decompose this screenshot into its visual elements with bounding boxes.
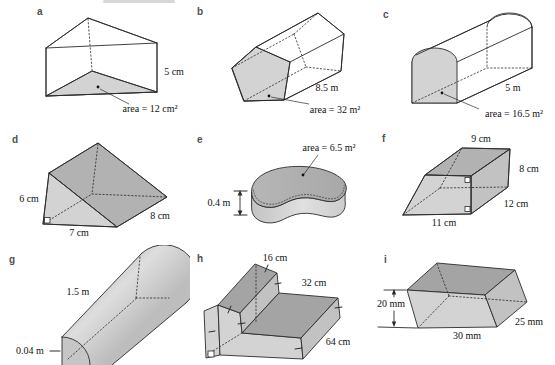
leader-dot: [302, 174, 305, 177]
area-label: area = 12 cm²: [123, 104, 178, 114]
panel-a-letter: a: [37, 7, 43, 17]
panel-f-letter: f: [382, 134, 385, 144]
panel-a: a 5 cm area = 12 cm²: [0, 0, 190, 125]
base-dim-label: 11 cm: [432, 218, 456, 228]
triangular-wedge-drawing: [0, 125, 190, 245]
right-angle-marker: [208, 351, 214, 357]
panel-e-letter: e: [197, 135, 203, 145]
panel-i-letter: i: [384, 255, 387, 265]
panel-f: f 9 cm 8 cm 12 cm 11 cm: [375, 125, 555, 245]
shaded-front-face: [412, 48, 457, 103]
leader-dot: [97, 86, 100, 89]
base-dim-label: 30 mm: [453, 331, 481, 341]
top-width-dim-label: 16 cm: [263, 253, 288, 263]
panel-b: b 8.5 m area = 32 m²: [190, 0, 375, 125]
area-label: area = 6.5 m²: [302, 143, 355, 153]
front-trapezoid-face: [403, 175, 471, 215]
height-dim-label: 20 mm: [377, 299, 405, 309]
length-dim-label: 8.5 m: [316, 83, 339, 93]
trapezoidal-prism-drawing: [375, 125, 555, 245]
area-label: area = 32 m²: [310, 105, 361, 115]
radius-dim-label: 0.04 m: [16, 346, 44, 356]
panel-i: i 20 mm 30 mm 25 mm: [375, 245, 555, 365]
panel-b-letter: b: [197, 7, 203, 17]
height-dim-label: 6 cm: [19, 194, 39, 204]
right-angle-marker: [45, 218, 51, 224]
rounded-prism-drawing: [375, 0, 555, 125]
prisms-figure: a 5 cm area = 12 cm² b 8.5 m area = 32 m…: [0, 0, 555, 365]
down-arrowhead: [392, 322, 396, 328]
leader-dot: [441, 92, 444, 95]
panel-d: d 6 cm 7 cm 8 cm: [0, 125, 190, 245]
panel-d-letter: d: [12, 135, 18, 145]
panel-g-letter: g: [9, 255, 15, 265]
step-width-dim-label: 32 cm: [302, 278, 327, 288]
panel-c: c 5 m area = 16.5 m²: [375, 0, 555, 125]
side-dim-label: 8 cm: [519, 164, 539, 174]
top-dim-label: 9 cm: [471, 134, 491, 144]
front-face: [407, 290, 497, 328]
right-angle-marker-bottom: [465, 207, 470, 212]
panel-c-letter: c: [383, 10, 389, 20]
base-dim-label: 7 cm: [69, 228, 89, 238]
depth-dim-label: 12 cm: [504, 199, 529, 209]
depth-dim-label: 8 cm: [150, 211, 170, 221]
right-angle-marker-top: [465, 178, 470, 183]
thickness-dim-label: 0.4 m: [208, 198, 231, 208]
length-dim-label: 5 m: [505, 83, 520, 93]
panel-e: e area = 6.5 m² 0.4 m: [190, 125, 380, 245]
step-prism-drawing: [190, 245, 380, 365]
length-dim-label: 64 cm: [326, 337, 351, 347]
panel-h: h 16 cm 32 cm 64 cm: [190, 245, 380, 365]
area-label: area = 16.5 m²: [485, 109, 543, 119]
leader-dot: [268, 95, 271, 98]
depth-dim-label: 25 mm: [515, 317, 543, 327]
panel-h-letter: h: [197, 254, 203, 264]
length-dim-label: 1.5 m: [67, 287, 90, 297]
height-dim-label: 5 cm: [164, 67, 184, 77]
panel-g: g 1.5 m 0.04 m: [0, 245, 190, 365]
